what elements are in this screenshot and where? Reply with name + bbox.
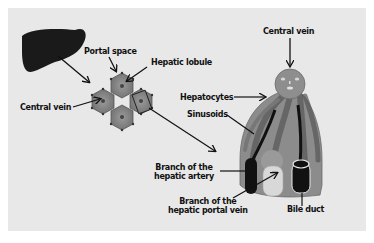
bile-duct-label: Bile duct xyxy=(287,205,324,214)
hepatic-artery-label-line2: hepatic artery xyxy=(154,172,214,181)
central-vein-left-label: Central vein xyxy=(20,103,71,112)
hepatic-portal-vein-label-line1: Branch of the xyxy=(168,197,248,206)
hepatic-portal-vein-label: Branch of the hepatic portal vein xyxy=(168,197,248,215)
central-vein-right-label: Central vein xyxy=(263,27,314,36)
hepatocytes-label: Hepatocytes xyxy=(180,93,233,102)
hepatic-lobule-label: Hepatic lobule xyxy=(151,58,212,67)
hepatic-portal-vein-label-line2: hepatic portal vein xyxy=(168,206,248,215)
hepatic-artery-label: Branch of the hepatic artery xyxy=(154,163,214,181)
hepatic-artery-label-line1: Branch of the xyxy=(154,163,214,172)
portal-space-label: Portal space xyxy=(84,47,137,56)
hepatic-lobules-icon xyxy=(92,73,152,130)
liver-icon xyxy=(22,29,86,72)
sinusoids-label: Sinusoids xyxy=(187,110,228,119)
